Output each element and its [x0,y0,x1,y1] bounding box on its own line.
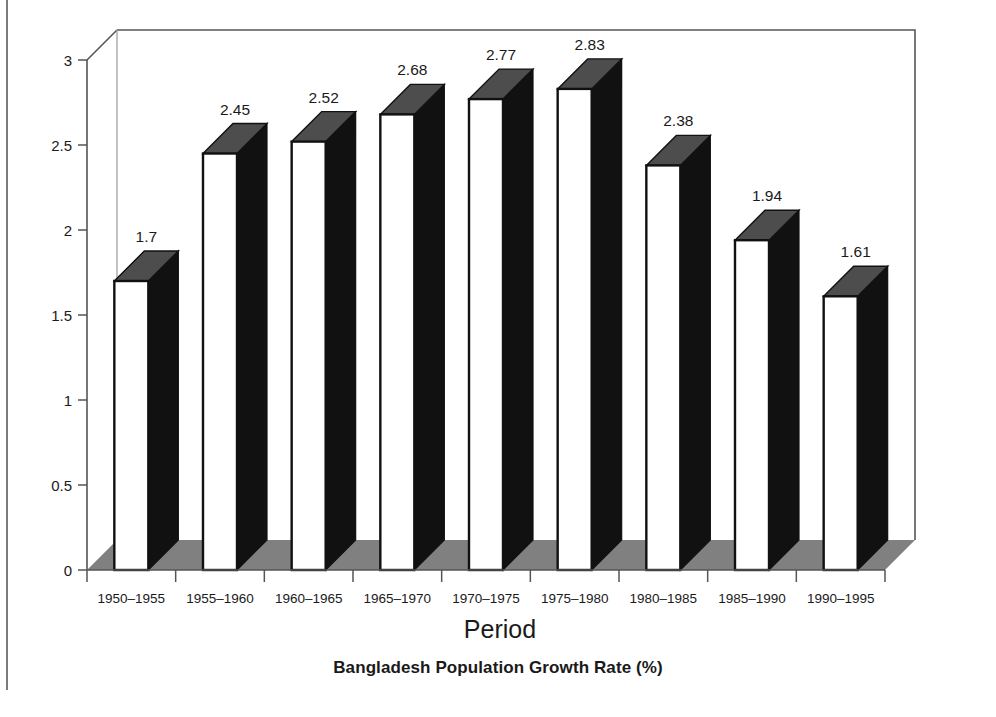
bar-front-face [646,165,680,570]
figure-container: 00.511.522.53 1.72.452.522.682.772.832.3… [0,0,996,717]
bar-column [380,84,444,570]
depth-edge-top-left [87,30,117,60]
bar-side-face [326,112,356,570]
bar-column [114,251,178,570]
bar-side-face [414,84,444,570]
bar-side-face [858,266,888,570]
x-axis: 1950–19551955–19601960–19651965–19701970… [87,570,885,606]
bar-front-face [824,296,858,570]
figure-caption: Bangladesh Population Growth Rate (%) [0,658,996,678]
bar-front-face [292,142,326,570]
bar-column [292,112,356,570]
bar-front-face [469,99,503,570]
bar-side-face [680,135,710,570]
x-axis-category-label: 1965–1970 [364,591,432,606]
y-axis: 00.511.522.53 [51,52,87,579]
bar-value-label: 1.61 [841,243,871,260]
y-axis-tick-label: 3 [64,52,72,69]
bar-side-face [148,251,178,570]
x-axis-title: Period [464,615,536,643]
x-axis-category-label: 1960–1965 [275,591,343,606]
bar-side-face [237,124,267,571]
y-axis-tick-label: 2.5 [51,137,72,154]
x-axis-category-label: 1970–1975 [452,591,520,606]
bar-side-face [769,210,799,570]
bar-column [203,124,267,571]
y-axis-tick-label: 0.5 [51,477,72,494]
x-axis-category-label: 1990–1995 [807,591,875,606]
x-axis-ticks: 1950–19551955–19601960–19651965–19701970… [87,570,885,606]
x-axis-category-label: 1980–1985 [630,591,698,606]
bar-column [558,59,622,570]
bar-front-face [114,281,148,570]
x-axis-category-label: 1975–1980 [541,591,609,606]
bar-value-label: 2.68 [397,61,427,78]
bar-column [469,69,533,570]
bar-value-label: 2.77 [486,46,516,63]
bar-value-label: 2.52 [309,89,339,106]
bar-front-face [380,114,414,570]
bar-value-label: 1.94 [752,187,783,204]
bar-front-face [203,154,237,571]
y-axis-tick-label: 1.5 [51,307,72,324]
bars-group: 1.72.452.522.682.772.832.381.941.61 [114,36,887,570]
x-axis-category-label: 1955–1960 [186,591,254,606]
bar-value-label: 2.83 [575,36,605,53]
x-axis-category-label: 1950–1955 [98,591,166,606]
bar-front-face [558,89,592,570]
bar-value-label: 2.38 [663,112,693,129]
bar-column [646,135,710,570]
bar-value-label: 2.45 [220,101,250,118]
bar-side-face [503,69,533,570]
bar-column [735,210,799,570]
x-axis-category-label: 1985–1990 [718,591,786,606]
bar-value-label: 1.7 [136,228,158,245]
bar-column [824,266,888,570]
y-axis-tick-label: 2 [64,222,72,239]
y-axis-tick-label: 1 [64,392,72,409]
bar-chart: 00.511.522.53 1.72.452.522.682.772.832.3… [0,0,996,717]
bar-front-face [735,240,769,570]
y-axis-tick-label: 0 [64,562,72,579]
bar-side-face [592,59,622,570]
